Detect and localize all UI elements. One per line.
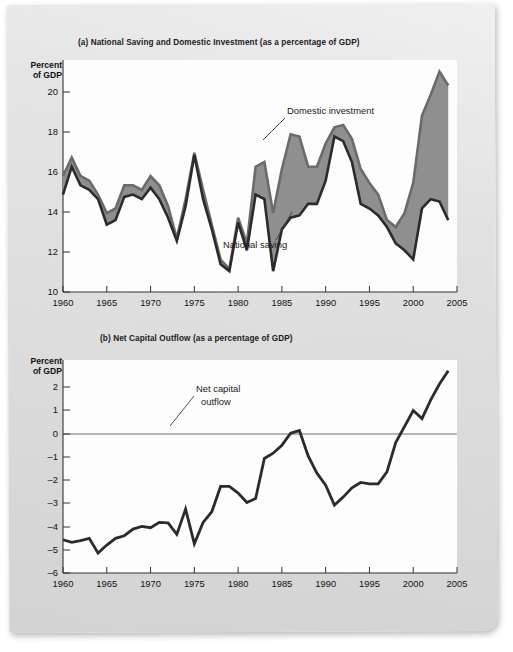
x-tick-label-1995: 1995 [359,578,380,589]
chart-a-y-label-16: 16 [48,166,58,177]
x-tick-label-1965: 1965 [96,578,117,589]
x-tick-label-2005: 2005 [447,578,468,589]
chart-b-annotation-line2: outflow [201,396,231,407]
x-tick-label-1980: 1980 [228,297,249,308]
chart-a-y-label-12: 12 [48,246,58,257]
x-tick-label-1960: 1960 [53,578,74,589]
x-tick-label-1960: 1960 [53,297,74,308]
x-tick-label-1980: 1980 [228,578,249,589]
x-tick-label-1975: 1975 [184,297,205,308]
x-tick-label-1975: 1975 [184,578,205,589]
x-tick-label-1995: 1995 [359,297,380,308]
chart-a-y-label-14: 14 [48,206,58,217]
x-tick-label-1965: 1965 [96,297,117,308]
chart-b-y-label-neg6: –6 [48,567,58,578]
x-tick-label-2005: 2005 [447,297,468,308]
x-tick-label-1985: 1985 [271,297,292,308]
x-tick-label-2000: 2000 [403,297,424,308]
chart-a-y-label-18: 18 [48,126,58,137]
x-tick-label-1970: 1970 [140,297,161,308]
figure-page: (a) National Saving and Domestic Investm… [0,0,513,652]
x-tick-label-1990: 1990 [315,297,336,308]
chart-a-y-tick-labels: 20 18 16 14 12 10 [48,86,58,297]
chart-b-plot: 2 1 0 –1 –2 –3 –4 –5 –6 1960196519701975… [0,348,513,623]
chart-b-title: (b) Net Capital Outflow (as a percentage… [100,334,293,343]
x-tick-label-1985: 1985 [271,578,292,589]
chart-b-plot-background [63,360,457,573]
x-tick-label-1990: 1990 [315,578,336,589]
chart-b-annotation-line1: Net capital [196,383,240,394]
chart-b-y-label-neg2: –2 [48,474,58,485]
chart-a-plot: 20 18 16 14 12 10 1960196519701975198019… [0,52,513,317]
chart-b-y-tick-labels: 2 1 0 –1 –2 –3 –4 –5 –6 [48,381,58,578]
x-tick-label-2000: 2000 [403,578,424,589]
x-tick-label-1970: 1970 [140,578,161,589]
chart-a-annotation-domestic-investment: Domestic investment [287,105,374,116]
chart-a-title: (a) National Saving and Domestic Investm… [78,38,360,47]
chart-b-y-label-0: 0 [53,428,58,439]
chart-b-y-label-neg4: –4 [48,521,58,532]
chart-b-y-label-neg3: –3 [48,497,58,508]
chart-b-y-label-neg1: –1 [48,451,58,462]
chart-a-y-label-20: 20 [48,86,58,97]
chart-b-y-label-1: 1 [53,404,58,415]
chart-b-y-label-neg5: –5 [48,544,58,555]
chart-b-y-label-2: 2 [53,381,58,392]
chart-a-y-label-10: 10 [48,286,58,297]
chart-a-annotation-national-saving: National saving [223,239,287,250]
